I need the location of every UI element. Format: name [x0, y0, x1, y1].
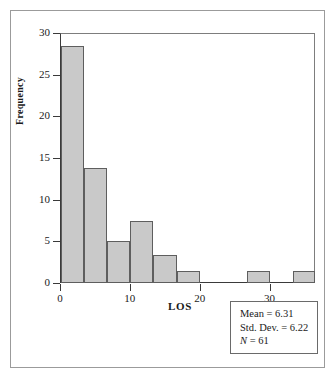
x-axis-tick: [270, 284, 271, 291]
histogram-bar: [293, 271, 315, 284]
x-axis-tick-label: 10: [115, 292, 145, 304]
y-axis-tick: [53, 75, 60, 76]
y-axis-tick-label: 0: [24, 277, 50, 288]
stat-mean: Mean = 6.31: [240, 307, 317, 321]
y-axis-tick: [53, 158, 60, 159]
stat-n-symbol: N: [240, 335, 247, 346]
histogram-bar: [177, 271, 200, 284]
histogram-figure: 051015202530 0102030 Frequency LOS Mean …: [0, 0, 336, 382]
y-axis-tick-label: 25: [24, 69, 50, 80]
y-axis-tick-label: 5: [24, 235, 50, 246]
histogram-bar: [153, 255, 177, 283]
x-axis-tick-label: 0: [45, 292, 75, 304]
histogram-bar: [84, 168, 107, 283]
histogram-bar: [61, 46, 83, 284]
y-axis-tick-label: 15: [24, 152, 50, 163]
y-axis-tick: [53, 33, 60, 34]
y-axis-title: Frequency: [14, 111, 25, 125]
histogram-bar: [107, 241, 130, 283]
x-axis-title: LOS: [150, 300, 210, 312]
x-axis-tick: [130, 284, 131, 291]
stat-n: N = 61: [240, 334, 317, 348]
stat-std-dev: Std. Dev. = 6.22: [240, 321, 317, 335]
x-axis-tick: [60, 284, 61, 291]
x-axis-tick: [200, 284, 201, 291]
y-axis-tick-label: 20: [24, 110, 50, 121]
histogram-bars: [60, 33, 315, 283]
statistics-box: Mean = 6.31 Std. Dev. = 6.22 N = 61: [230, 301, 318, 354]
y-axis-tick-label: 30: [24, 27, 50, 38]
y-axis-tick: [53, 200, 60, 201]
y-axis-tick: [53, 241, 60, 242]
y-axis-tick: [53, 283, 60, 284]
histogram-bar: [130, 221, 153, 283]
stat-n-value: = 61: [247, 335, 269, 346]
y-axis-tick: [53, 116, 60, 117]
y-axis-tick-label: 10: [24, 194, 50, 205]
histogram-bar: [247, 271, 270, 284]
